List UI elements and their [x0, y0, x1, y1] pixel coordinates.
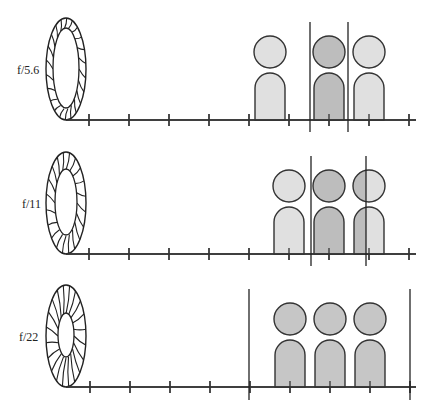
- depth-of-field-diagram: f/5.6 f/11 f/22: [0, 0, 434, 414]
- person-icon: [273, 170, 305, 254]
- person-icon: [353, 170, 385, 254]
- panel-f22: f/22: [19, 285, 416, 400]
- person-icon: [274, 303, 306, 387]
- aperture-label: f/5.6: [17, 63, 39, 77]
- person-icon: [313, 170, 345, 254]
- aperture-lens-icon: [46, 285, 86, 387]
- person-icon: [314, 303, 346, 387]
- aperture-lens-icon: [46, 152, 86, 254]
- panel-f5-6: f/5.6: [17, 18, 416, 132]
- person-icon: [313, 36, 345, 120]
- aperture-label: f/11: [22, 197, 41, 211]
- aperture-lens-icon: [46, 18, 86, 120]
- aperture-label: f/22: [19, 330, 38, 344]
- person-icon: [254, 36, 286, 120]
- person-icon: [354, 303, 386, 387]
- person-icon: [353, 36, 385, 120]
- diagram-canvas: f/5.6 f/11 f/22: [0, 0, 434, 414]
- panel-f11: f/11: [22, 152, 416, 266]
